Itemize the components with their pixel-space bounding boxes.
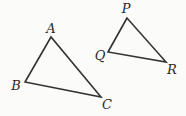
vertex-label-r: R: [166, 62, 177, 77]
vertex-label-q: Q: [95, 48, 106, 63]
diagram-svg: A B C P Q R: [0, 0, 186, 116]
triangle-pqr: [108, 18, 166, 62]
triangle-diagram: A B C P Q R: [0, 0, 186, 116]
vertex-label-a: A: [45, 21, 55, 36]
vertex-label-p: P: [121, 1, 131, 16]
triangle-abc: [25, 37, 101, 97]
vertex-label-b: B: [10, 78, 21, 93]
vertex-label-c: C: [102, 97, 112, 112]
